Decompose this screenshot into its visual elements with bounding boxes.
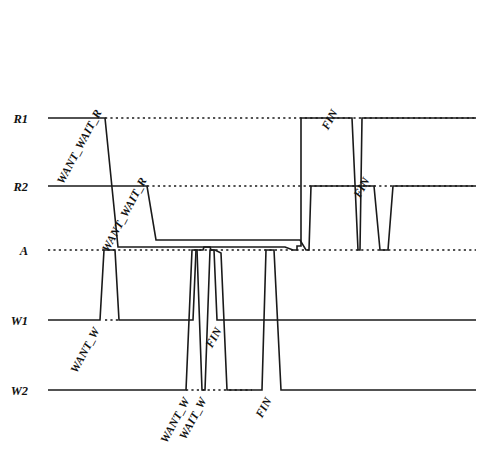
- event-label-w2-fin: FIN: [253, 395, 274, 421]
- wave-w1: [48, 247, 476, 320]
- axis-label-w1: W1: [11, 314, 28, 328]
- event-label-r1-fin: FIN: [319, 107, 340, 133]
- event-label-r2-want-wait-r: WANT_WAIT_R: [100, 175, 149, 253]
- axis-label-a: A: [19, 244, 28, 258]
- event-label-r1-want-wait-r: WANT_WAIT_R: [55, 107, 104, 185]
- axis-label-r1: R1: [12, 112, 28, 126]
- axis-label-w2: W2: [11, 384, 28, 398]
- axis-label-r2: R2: [12, 180, 28, 194]
- event-label-w1-want-w: WANT_W: [68, 325, 102, 375]
- guide-lines-group: [48, 118, 476, 390]
- axis-labels-group: R1R2AW1W2: [11, 112, 28, 398]
- timing-diagram-canvas: R1R2AW1W2 WANT_WAIT_RWANT_WAIT_RFINFINWA…: [0, 0, 483, 473]
- timing-diagram-figure: R1R2AW1W2 WANT_WAIT_RWANT_WAIT_RFINFINWA…: [0, 0, 483, 473]
- waveforms-group: [48, 118, 476, 390]
